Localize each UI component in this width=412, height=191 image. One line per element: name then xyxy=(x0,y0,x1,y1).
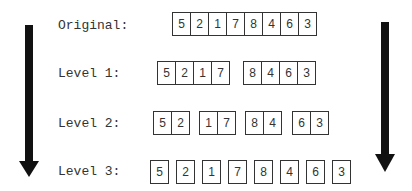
array-group: 8 xyxy=(254,160,273,184)
array-cell: 1 xyxy=(193,61,212,85)
down-arrow-icon-right xyxy=(375,22,395,172)
array-group: 5 2 xyxy=(153,111,190,135)
array-cell: 1 xyxy=(208,12,227,36)
array-cell: 2 xyxy=(190,12,209,36)
label-level-1: Level 1: xyxy=(58,67,120,81)
array-cell: 5 xyxy=(157,61,176,85)
array-group: 2 xyxy=(176,160,195,184)
array-cell: 7 xyxy=(228,160,247,184)
array-group: 8 4 xyxy=(245,111,282,135)
array-group: 6 xyxy=(306,160,325,184)
array-cell: 5 xyxy=(172,12,191,36)
array-group: 5 2 1 7 xyxy=(157,61,230,85)
array-cell: 3 xyxy=(297,61,316,85)
array-cell: 6 xyxy=(292,111,311,135)
array-cell: 3 xyxy=(298,12,317,36)
array-cell: 3 xyxy=(310,111,329,135)
array-cell: 6 xyxy=(279,61,298,85)
array-group: 1 7 xyxy=(199,111,236,135)
label-level-3: Level 3: xyxy=(58,165,120,179)
array-group: 5 xyxy=(150,160,169,184)
array-cell: 6 xyxy=(306,160,325,184)
array-cell: 2 xyxy=(175,61,194,85)
array-group: 1 xyxy=(202,160,221,184)
array-cell: 2 xyxy=(176,160,195,184)
array-group: 6 3 xyxy=(292,111,329,135)
array-cell: 5 xyxy=(153,111,172,135)
array-cell: 4 xyxy=(261,61,280,85)
array-group: 4 xyxy=(280,160,299,184)
array-cell: 4 xyxy=(262,12,281,36)
array-cell: 7 xyxy=(211,61,230,85)
array-cell: 8 xyxy=(244,12,263,36)
array-group: 5 2 1 7 8 4 6 3 xyxy=(172,12,317,36)
array-cell: 8 xyxy=(245,111,264,135)
array-cell: 1 xyxy=(202,160,221,184)
array-cell: 2 xyxy=(171,111,190,135)
array-cell: 5 xyxy=(150,160,169,184)
array-group: 3 xyxy=(332,160,351,184)
array-cell: 4 xyxy=(263,111,282,135)
array-cell: 7 xyxy=(217,111,236,135)
array-cell: 7 xyxy=(226,12,245,36)
array-cell: 4 xyxy=(280,160,299,184)
array-cell: 8 xyxy=(254,160,273,184)
array-group: 7 xyxy=(228,160,247,184)
array-cell: 3 xyxy=(332,160,351,184)
label-original: Original: xyxy=(58,19,128,33)
array-cell: 6 xyxy=(280,12,299,36)
array-group: 8 4 6 3 xyxy=(243,61,316,85)
array-cell: 8 xyxy=(243,61,262,85)
label-level-2: Level 2: xyxy=(58,117,120,131)
down-arrow-icon-left xyxy=(19,25,39,177)
array-cell: 1 xyxy=(199,111,218,135)
